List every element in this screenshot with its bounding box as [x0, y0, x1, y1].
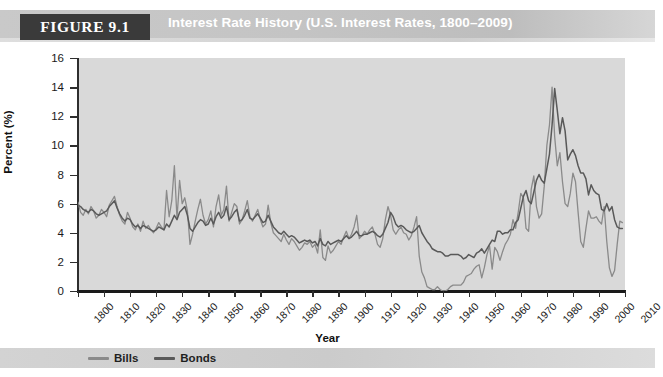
x-axis-tick-label: 1800: [91, 300, 116, 325]
x-axis-tick-label: 1930: [429, 300, 454, 325]
y-axis-tick: [70, 233, 78, 234]
x-axis-tick: [391, 291, 392, 297]
x-axis-tick-label: 1870: [273, 300, 298, 325]
x-axis-tick: [312, 291, 313, 297]
figure-title: Interest Rate History (U.S. Interest Rat…: [168, 15, 513, 30]
x-axis-tick-label: 1960: [508, 300, 533, 325]
x-axis-tick-label: 1860: [247, 300, 272, 325]
x-axis-tick: [130, 291, 131, 297]
y-axis-tick-labels: 0246810121416: [38, 44, 64, 304]
y-axis-title: Percent (%): [2, 110, 14, 173]
chart-legend: BillsBonds: [88, 350, 216, 366]
chart-container: Percent (%) 0246810121416 18001810182018…: [0, 44, 655, 344]
x-axis-tick-label: 1810: [117, 300, 142, 325]
x-axis-tick-label: 1900: [351, 300, 376, 325]
y-axis-tick-label: 8: [40, 169, 64, 181]
x-axis-tick: [286, 291, 287, 297]
y-axis-tick-label: 16: [40, 52, 64, 64]
series-line-bills: [78, 87, 622, 291]
x-axis-tick: [104, 291, 105, 297]
figure-number-label: FIGURE 9.1: [40, 18, 130, 36]
x-axis-tick-label: 1820: [143, 300, 168, 325]
y-axis-tick-label: 14: [40, 81, 64, 93]
x-axis-tick-label: 1840: [195, 300, 220, 325]
y-axis-tick-label: 2: [40, 256, 64, 268]
x-axis-tick: [78, 291, 79, 297]
x-axis-tick-label: 1880: [299, 300, 324, 325]
x-axis-tick: [365, 291, 366, 297]
y-axis-tick: [70, 175, 78, 176]
legend-swatch-bonds: [154, 357, 175, 360]
x-axis-tick: [469, 291, 470, 297]
y-axis-tick-label: 0: [40, 285, 64, 297]
y-axis-tick: [70, 87, 78, 88]
series-line-bonds: [78, 89, 622, 259]
x-axis-tick: [573, 291, 574, 297]
x-axis-tick: [208, 291, 209, 297]
figure-number-badge: FIGURE 9.1: [20, 14, 150, 40]
x-axis-tick-label: 1920: [403, 300, 428, 325]
y-axis-tick: [70, 291, 78, 292]
x-axis-tick: [547, 291, 548, 297]
x-axis-tick-label: 1940: [455, 300, 480, 325]
x-axis-tick: [625, 291, 626, 297]
legend-label-bonds: Bonds: [180, 352, 216, 364]
x-axis-tick-label: 1910: [377, 300, 402, 325]
x-axis-tick-label: 2010: [638, 300, 663, 325]
x-axis-tick-label: 1890: [325, 300, 350, 325]
x-axis-title: Year: [0, 332, 655, 344]
x-axis-tick: [417, 291, 418, 297]
x-axis-tick: [521, 291, 522, 297]
legend-item-bonds[interactable]: Bonds: [154, 352, 216, 364]
x-axis-tick-label: 1990: [586, 300, 611, 325]
x-axis-tick-label: 1830: [169, 300, 194, 325]
y-axis-tick-label: 12: [40, 110, 64, 122]
x-axis-tick-label: 1970: [534, 300, 559, 325]
x-axis-tick: [495, 291, 496, 297]
legend-label-bills: Bills: [114, 352, 138, 364]
x-axis-tick-label: 1980: [560, 300, 585, 325]
y-axis-tick: [70, 145, 78, 146]
series-plot: [78, 58, 625, 291]
y-axis-tick-label: 10: [40, 139, 64, 151]
y-axis-tick: [70, 204, 78, 205]
x-axis-tick-label: 1950: [482, 300, 507, 325]
y-axis-tick-label: 6: [40, 198, 64, 210]
y-axis-tick: [70, 58, 78, 59]
x-axis-tick: [234, 291, 235, 297]
y-axis-tick-label: 4: [40, 227, 64, 239]
y-axis-tick: [70, 262, 78, 263]
x-axis-tick-label: 2000: [612, 300, 637, 325]
x-axis-tick: [338, 291, 339, 297]
legend-item-bills[interactable]: Bills: [88, 352, 138, 364]
x-axis-tick: [182, 291, 183, 297]
legend-swatch-bills: [88, 357, 109, 360]
x-axis-tick: [156, 291, 157, 297]
x-axis-tick: [443, 291, 444, 297]
x-axis-tick: [260, 291, 261, 297]
x-axis-tick: [599, 291, 600, 297]
x-axis-tick-label: 1850: [221, 300, 246, 325]
y-axis-tick: [70, 116, 78, 117]
